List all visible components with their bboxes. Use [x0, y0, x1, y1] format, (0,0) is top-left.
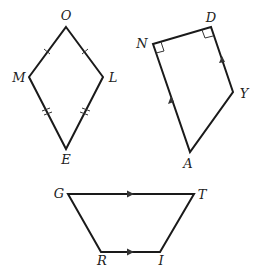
quadrilateral-outline — [153, 27, 233, 152]
vertex-label-D: D — [205, 10, 217, 25]
vertex-label-A: A — [182, 156, 192, 171]
diagram-canvas: O L E M N D Y A G T I R — [0, 0, 253, 267]
vertex-label-T: T — [198, 187, 208, 202]
trapezoid-outline — [68, 194, 194, 252]
kite-OLEM: O L E M — [11, 8, 117, 167]
parallel-arrow-DY — [219, 56, 225, 63]
right-angle-mark-D — [202, 30, 213, 38]
vertex-label-L: L — [108, 70, 118, 85]
vertex-label-M: M — [11, 70, 26, 85]
parallel-arrow-RI — [127, 249, 134, 256]
vertex-label-R: R — [96, 253, 107, 267]
vertex-label-E: E — [60, 152, 71, 167]
vertex-label-G: G — [54, 186, 64, 201]
vertex-label-Y: Y — [240, 86, 250, 101]
geometry-figure: O L E M N D Y A G T I R — [0, 0, 253, 267]
quadrilateral-NDYA: N D Y A — [135, 10, 249, 171]
parallel-arrow-GT — [127, 191, 134, 198]
vertex-label-O: O — [61, 8, 72, 23]
trapezoid-GTIR: G T I R — [54, 186, 208, 267]
vertex-label-I: I — [157, 253, 164, 267]
kite-outline — [29, 27, 103, 149]
vertex-label-N: N — [135, 36, 148, 51]
